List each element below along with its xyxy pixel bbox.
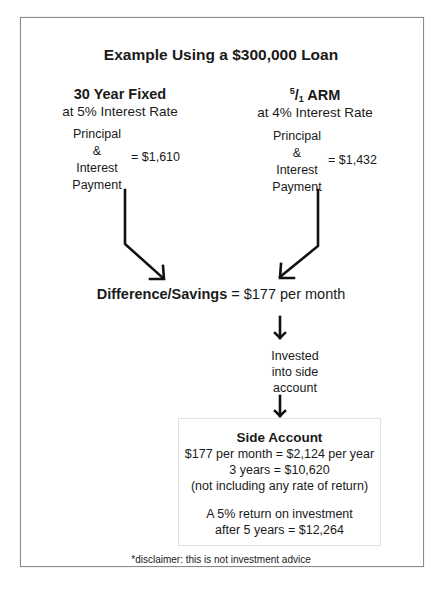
side-account-line: (not including any rate of return) [179, 478, 380, 494]
side-account-box: Side Account $177 per month = $2,124 per… [178, 418, 381, 546]
return-line: after 5 years = $12,264 [179, 522, 380, 538]
side-account-line: $177 per month = $2,124 per year [179, 446, 380, 462]
side-account-line: 3 years = $10,620 [179, 462, 380, 478]
right-arrow-icon [280, 190, 318, 277]
disclaimer: *disclaimer: this is not investment advi… [0, 554, 442, 565]
invested-line: account [250, 380, 340, 396]
difference-savings: Difference/Savings = $177 per month [0, 286, 442, 302]
invested-line: into side [250, 364, 340, 380]
difference-value: = $177 per month [227, 286, 345, 302]
left-arrow-icon [125, 190, 163, 278]
difference-label: Difference/Savings [97, 286, 228, 302]
invested-line: Invested [250, 348, 340, 364]
invested-note: Invested into side account [250, 348, 340, 396]
side-account-title: Side Account [179, 430, 380, 446]
return-line: A 5% return on investment [179, 506, 380, 522]
